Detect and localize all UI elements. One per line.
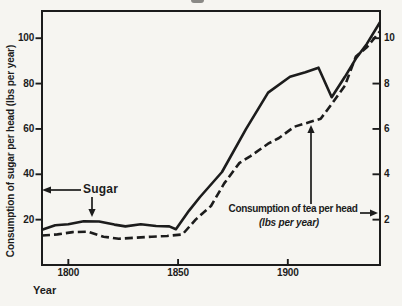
tea-series-label-line1: Consumption of tea per head xyxy=(229,203,358,214)
scan-artifact xyxy=(191,0,204,3)
chart-canvas xyxy=(0,0,402,306)
tea-axis-arrow-icon xyxy=(360,209,378,216)
y-left-tick-label: 60 xyxy=(7,123,34,134)
sugar-series-label: Sugar xyxy=(83,182,118,196)
tea-line-arrow-icon xyxy=(307,125,314,204)
sugar-axis-arrow-icon xyxy=(42,186,81,193)
y-right-tick-label: 8 xyxy=(384,78,389,89)
y-left-tick-label: 20 xyxy=(7,214,34,225)
y-left-tick-label: 40 xyxy=(7,169,34,180)
tea-series-label-line2: (lbs per year) xyxy=(259,217,319,228)
x-tick-label: 1800 xyxy=(58,267,79,278)
y-left-tick-label: 80 xyxy=(7,78,34,89)
scanned-chart-page: Consumption of sugar per head (lbs per y… xyxy=(0,0,402,306)
y-left-tick-label: 100 xyxy=(7,32,34,43)
y-right-tick-label: 6 xyxy=(384,123,389,134)
sugar-line-arrow-icon xyxy=(88,197,95,217)
y-axis-title: Consumption of sugar per head (lbs per y… xyxy=(5,45,16,257)
x-axis-title: Year xyxy=(33,284,56,296)
plot-frame xyxy=(42,11,380,265)
y-right-tick-label: 4 xyxy=(384,169,389,180)
x-tick-label: 1850 xyxy=(167,267,188,278)
y-right-tick-label: 2 xyxy=(384,214,389,225)
x-tick-label: 1900 xyxy=(277,267,298,278)
y-right-tick-label: 10 xyxy=(384,32,395,43)
